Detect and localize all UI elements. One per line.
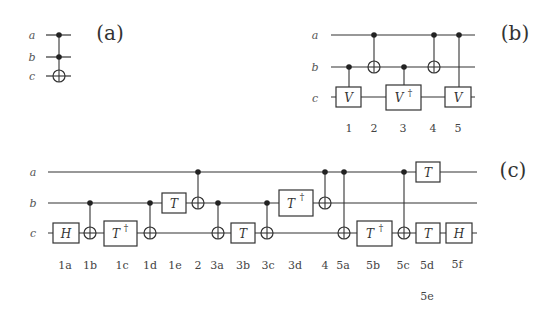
svg-text:T: T	[170, 197, 179, 211]
step-label: 5	[455, 122, 462, 135]
step-label: 5d	[420, 259, 434, 272]
svg-text:V: V	[454, 91, 464, 105]
step-label: 1e	[168, 259, 182, 272]
qubit-label-a: a	[29, 29, 36, 42]
qubit-label-c: c	[29, 70, 35, 83]
panel-label-b: (b)	[501, 21, 529, 45]
gate-3c-cnot	[261, 200, 273, 239]
step-label: 5a	[336, 259, 350, 272]
svg-text:V: V	[395, 91, 405, 105]
step-labels-b: 1 2 3 4 5	[346, 122, 462, 135]
control-dot	[56, 54, 62, 60]
svg-text:V: V	[344, 91, 354, 105]
step-label: 2	[195, 259, 202, 272]
panel-a: a b c (a)	[28, 21, 123, 83]
svg-text:T: T	[287, 197, 296, 211]
step-label: 4	[430, 122, 437, 135]
gate-4-cnot	[428, 32, 440, 73]
gate-1a-hadamard: H	[53, 223, 79, 243]
step-label: 3c	[261, 259, 274, 272]
svg-text:†: †	[300, 192, 305, 202]
target-xor-icon	[53, 70, 65, 82]
step-label: 3	[400, 122, 407, 135]
qubit-label-c: c	[312, 92, 318, 105]
step-label: 1a	[58, 259, 72, 272]
step-label: 3b	[236, 259, 250, 272]
svg-text:†: †	[124, 223, 129, 233]
gate-5e-t: T	[416, 162, 440, 182]
step-label: 1b	[83, 259, 97, 272]
gate-5-controlled-v: V	[445, 32, 471, 107]
gate-2-cnot	[192, 169, 204, 209]
svg-text:H: H	[453, 227, 465, 241]
qubit-label-c: c	[30, 227, 36, 240]
svg-text:†: †	[408, 88, 413, 98]
step-label: 2	[371, 122, 378, 135]
gate-1e-t: T	[162, 193, 186, 213]
gate-4-cnot	[319, 169, 331, 209]
svg-text:T: T	[112, 227, 121, 241]
step-label: 1d	[143, 259, 157, 272]
step-labels-c: 1a 1b 1c 1d 1e 2 3a 3b 3c 3d 4 5a 5b 5c …	[58, 258, 463, 303]
step-label: 3a	[210, 259, 224, 272]
step-label: 5c	[396, 259, 409, 272]
gate-5a-cnot	[338, 169, 350, 239]
panel-label-c: (c)	[500, 158, 527, 182]
step-label: 5f	[451, 258, 463, 271]
qubit-label-b: b	[311, 61, 318, 74]
gate-1c-t-dagger: T †	[104, 221, 137, 246]
gate-3b-t: T	[231, 223, 255, 243]
gate-1d-cnot	[144, 200, 156, 239]
qubit-label-a: a	[312, 29, 319, 42]
svg-text:H: H	[60, 227, 72, 241]
gate-2-cnot	[368, 32, 380, 73]
gate-1b-cnot	[84, 200, 96, 239]
gate-3a-cnot	[212, 200, 224, 239]
gate-5f-hadamard: H	[446, 223, 472, 243]
svg-text:T: T	[424, 166, 433, 180]
step-label: 5e	[420, 290, 434, 303]
qubit-label-b: b	[29, 197, 36, 210]
panel-c: a b c H T †	[29, 158, 526, 303]
step-label: 1c	[115, 259, 128, 272]
gate-5d-t: T	[416, 223, 440, 243]
step-label: 1	[346, 122, 353, 135]
gate-3d-t-dagger: T †	[279, 190, 313, 216]
step-label: 3d	[288, 259, 302, 272]
step-label: 4	[322, 259, 329, 272]
svg-text:T: T	[239, 227, 248, 241]
gate-1-controlled-v: V	[336, 64, 361, 107]
qubit-label-b: b	[28, 51, 35, 64]
qubit-label-a: a	[30, 166, 37, 179]
gate-5c-cnot	[398, 169, 410, 239]
step-label: 5b	[366, 259, 380, 272]
gate-3-controlled-v-dagger: V †	[386, 64, 421, 110]
svg-text:T: T	[366, 227, 375, 241]
gate-5b-t-dagger: T †	[357, 221, 392, 246]
quantum-circuit-figure: a b c (a) a b c V	[0, 0, 560, 317]
panel-label-a: (a)	[96, 21, 124, 45]
panel-b: a b c V V †	[311, 21, 529, 135]
svg-text:†: †	[379, 223, 384, 233]
svg-text:T: T	[424, 227, 433, 241]
control-dot	[56, 32, 62, 38]
